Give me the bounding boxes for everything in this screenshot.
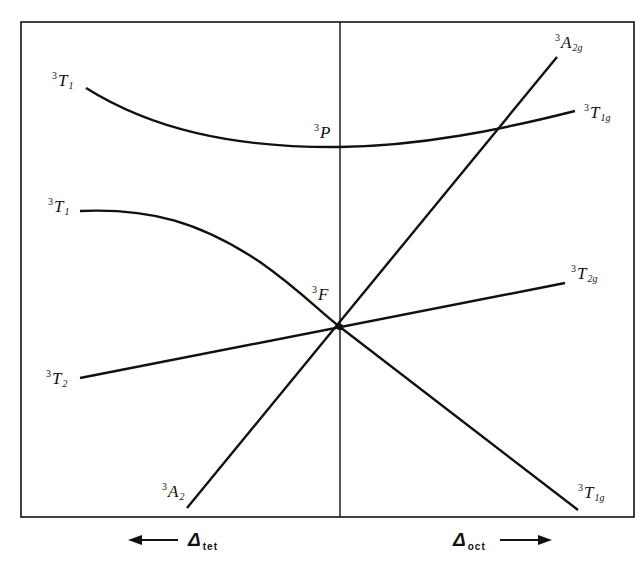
label-right-3T2g: 3T2g <box>571 265 597 282</box>
term-label-3F: 3F <box>312 286 328 303</box>
term-symbol: P <box>320 123 330 142</box>
symbol: T <box>54 197 63 216</box>
delta-subscript: tet <box>203 541 218 552</box>
symbol: T <box>58 71 67 90</box>
label-right-3T1g-upper: 3T1g <box>584 104 610 121</box>
line-3F-A2 <box>187 57 557 508</box>
diagram-canvas <box>0 0 644 566</box>
label-left-3A2: 3A2 <box>162 483 184 500</box>
label-left-3T2: 3T2 <box>46 370 67 387</box>
subscript: 1g <box>600 112 610 123</box>
label-left-3T1-upper: 3T1 <box>52 72 73 89</box>
curve-3P-T1 <box>86 88 575 147</box>
term-multiplicity: 3 <box>314 122 319 133</box>
center-node <box>337 324 343 330</box>
term-symbol: F <box>318 285 328 304</box>
right-arrow-head <box>538 535 552 545</box>
diagram-frame <box>21 22 634 517</box>
symbol: A <box>168 482 178 501</box>
delta-symbol: Δ <box>188 529 201 550</box>
multiplicity: 3 <box>555 32 560 43</box>
x-axis-label-tetrahedral: Δtet <box>188 530 218 549</box>
orgel-diagram: 3P 3F 3T1 3T1 3T2 3A2 3A2g 3T1g 3T2g 3T1… <box>0 0 644 566</box>
label-right-3A2g: 3A2g <box>555 34 582 51</box>
label-right-3T1g-lower: 3T1g <box>578 484 604 501</box>
multiplicity: 3 <box>584 102 589 113</box>
symbol: T <box>577 264 586 283</box>
subscript: 1 <box>64 206 69 217</box>
subscript: 1g <box>594 492 604 503</box>
label-left-3T1-lower: 3T1 <box>48 198 69 215</box>
symbol: T <box>584 483 593 502</box>
multiplicity: 3 <box>578 482 583 493</box>
term-label-3P: 3P <box>314 124 330 141</box>
left-arrow-head <box>128 535 142 545</box>
subscript: 2g <box>572 42 582 53</box>
multiplicity: 3 <box>48 196 53 207</box>
subscript: 2 <box>62 378 67 389</box>
subscript: 2g <box>587 273 597 284</box>
term-multiplicity: 3 <box>312 284 317 295</box>
delta-subscript: oct <box>468 541 486 552</box>
subscript: 2 <box>179 491 184 502</box>
x-axis-label-octahedral: Δoct <box>453 530 486 549</box>
symbol: T <box>52 369 61 388</box>
symbol: A <box>561 33 571 52</box>
delta-symbol: Δ <box>453 529 466 550</box>
multiplicity: 3 <box>162 481 167 492</box>
multiplicity: 3 <box>52 70 57 81</box>
curve-3F-T1 <box>80 211 578 510</box>
symbol: T <box>590 103 599 122</box>
subscript: 1 <box>68 80 73 91</box>
multiplicity: 3 <box>46 368 51 379</box>
multiplicity: 3 <box>571 263 576 274</box>
